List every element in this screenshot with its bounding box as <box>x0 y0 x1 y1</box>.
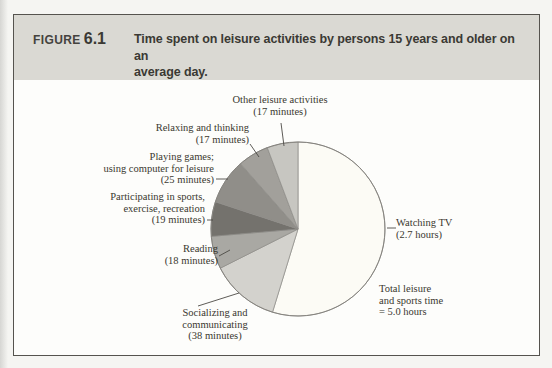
pie-label-other-leisure: Other leisure activities (17 minutes) <box>203 94 357 117</box>
leader-line-socializing <box>198 293 239 306</box>
pie-label-sports: Participating in sports, exercise, recre… <box>45 191 205 226</box>
pie-annotation-total: Total leisure and sports time = 5.0 hour… <box>379 283 489 318</box>
scanned-page: FIGURE6.1 Time spent on leisure activiti… <box>0 0 552 368</box>
leader-line-other <box>281 123 284 146</box>
pie-label-playing-games: Playing games; using computer for leisur… <box>44 151 214 186</box>
pie-label-socializing: Socializing and communicating (38 minute… <box>148 307 282 342</box>
pie-label-relaxing: Relaxing and thinking (17 minutes) <box>89 122 249 145</box>
pie-label-watching-tv: Watching TV (2.7 hours) <box>396 217 506 240</box>
pie-label-reading: Reading (18 minutes) <box>98 243 218 266</box>
